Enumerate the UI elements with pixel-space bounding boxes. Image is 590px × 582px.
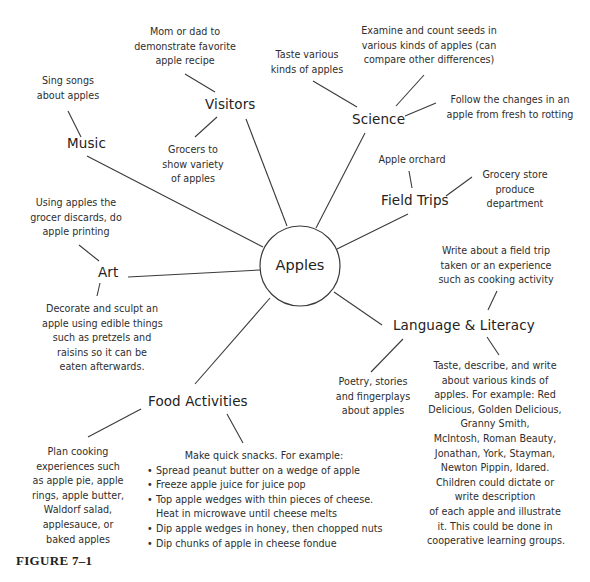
- note-line: Grocery store: [472, 168, 558, 183]
- note-line: such as cooking activity: [437, 273, 555, 288]
- note-line: and fingerplays: [330, 390, 416, 405]
- note-line: Examine and count seeds in: [358, 24, 500, 39]
- note-line: Mom or dad to: [127, 25, 243, 40]
- connector-language-poetry: [371, 339, 403, 372]
- category-language-literacy: Language & Literacy: [393, 317, 535, 333]
- snack-item: Spread peanut butter on a wedge of apple: [147, 464, 381, 479]
- connector-center-language: [334, 292, 382, 325]
- snacks-list: Spread peanut butter on a wedge of apple…: [147, 464, 381, 552]
- note-visitors-parent-recipe: Mom or dad to demonstrate favorite apple…: [127, 25, 243, 69]
- note-line: Apple orchard: [374, 153, 450, 168]
- note-line: experiences such: [32, 460, 124, 475]
- note-line: rings, apple butter,: [32, 489, 124, 504]
- connector-art-printing: [79, 245, 99, 261]
- snack-item-line: Heat in microwave until cheese melts: [156, 507, 381, 522]
- note-line: Granny Smith,: [427, 417, 563, 432]
- note-line: compare other differences): [358, 53, 500, 68]
- note-line: Follow the changes in an: [435, 93, 585, 108]
- snack-item-line: Top apple wedges with thin pieces of che…: [156, 493, 381, 508]
- category-music: Music: [67, 135, 106, 151]
- center-topic: Apples: [260, 257, 340, 273]
- note-line: show variety: [155, 158, 231, 173]
- note-line: baked apples: [32, 533, 124, 548]
- note-line: Grocers to: [155, 143, 231, 158]
- note-language-poetry: Poetry, stories and fingerplays about ap…: [330, 375, 416, 419]
- note-line: write description: [427, 490, 563, 505]
- note-line: Decorate and sculpt an: [42, 302, 162, 317]
- note-line: Sing songs: [32, 74, 104, 89]
- note-line: Children could dictate or: [427, 476, 563, 491]
- note-line: kinds of apples: [266, 63, 348, 78]
- note-line: it. This could be done in: [427, 520, 563, 535]
- note-line: department: [472, 197, 558, 212]
- note-line: Taste, describe, and write: [427, 359, 563, 374]
- connector-visitors-grocers: [195, 117, 217, 137]
- note-line: eaten afterwards.: [42, 360, 162, 375]
- note-line: grocer discards, do: [24, 211, 128, 226]
- category-visitors: Visitors: [205, 96, 255, 112]
- note-food-plan-cooking: Plan cooking experiences such as apple p…: [32, 445, 124, 547]
- note-line: such as pretzels and: [42, 331, 162, 346]
- note-line: various kinds of apples (can: [358, 39, 500, 54]
- note-line: Write about a field trip: [437, 244, 555, 259]
- connector-center-visitors: [246, 119, 287, 226]
- note-science-rotting: Follow the changes in an apple from fres…: [435, 93, 585, 122]
- note-line: cooperative learning groups.: [427, 534, 563, 549]
- connector-music-songs: [68, 111, 81, 137]
- connector-science-taste: [313, 81, 357, 107]
- figure-caption: FIGURE 7–1: [16, 553, 92, 569]
- note-line: apple printing: [24, 225, 128, 240]
- connector-center-art: [128, 270, 260, 277]
- note-line: applesauce, or: [32, 518, 124, 533]
- note-line: Plan cooking: [32, 445, 124, 460]
- connector-food-snacks: [227, 414, 243, 443]
- connector-language-write: [488, 291, 497, 310]
- category-food-activities: Food Activities: [148, 393, 248, 409]
- category-field-trips: Field Trips: [381, 192, 449, 208]
- connector-center-science: [316, 133, 365, 228]
- note-line: taken or an experience: [437, 259, 555, 274]
- connector-art-decorate: [97, 283, 100, 296]
- note-line: Waldorf salad,: [32, 503, 124, 518]
- note-line: McIntosh, Roman Beauty,: [427, 432, 563, 447]
- connector-language-taste: [487, 337, 499, 355]
- note-field-orchard: Apple orchard: [374, 153, 450, 168]
- note-field-grocery: Grocery store produce department: [472, 168, 558, 212]
- note-line: about apples: [330, 404, 416, 419]
- note-line: produce: [472, 183, 558, 198]
- category-science: Science: [352, 111, 405, 127]
- snack-item: Freeze apple juice for juice pop: [147, 478, 381, 493]
- note-language-taste-describe: Taste, describe, and write about various…: [427, 359, 563, 549]
- note-line: Taste various: [266, 48, 348, 63]
- connector-food-plan: [88, 409, 141, 437]
- note-line: Newton Pippin, Idared.: [427, 461, 563, 476]
- note-line: of each apple and illustrate: [427, 505, 563, 520]
- note-line: Using apples the: [24, 196, 128, 211]
- note-language-write-field-trip: Write about a field trip taken or an exp…: [437, 244, 555, 288]
- connector-science-seeds: [396, 75, 424, 106]
- note-art-printing: Using apples the grocer discards, do app…: [24, 196, 128, 240]
- note-line: Delicious, Golden Delicious,: [427, 403, 563, 418]
- connector-center-field-trips: [337, 214, 408, 249]
- note-line: raisins so it can be: [42, 346, 162, 361]
- snack-item: Dip apple wedges in honey, then chopped …: [147, 522, 381, 537]
- note-line: Jonathan, York, Stayman,: [427, 447, 563, 462]
- snack-item: Dip chunks of apple in cheese fondue: [147, 537, 381, 552]
- note-line: Poetry, stories: [330, 375, 416, 390]
- note-music-songs: Sing songs about apples: [32, 74, 104, 103]
- connector-science-rotting: [405, 103, 436, 116]
- connector-field-grocery: [446, 177, 472, 196]
- note-science-taste: Taste various kinds of apples: [266, 48, 348, 77]
- connector-field-orchard: [409, 171, 412, 188]
- note-line: apples. For example: Red: [427, 388, 563, 403]
- note-line: apple from fresh to rotting: [435, 108, 585, 123]
- note-food-snacks: Make quick snacks. For example: Spread p…: [147, 449, 381, 551]
- note-line: about various kinds of: [427, 374, 563, 389]
- note-line: about apples: [32, 89, 104, 104]
- connector-visitors-parent: [185, 74, 215, 92]
- note-line: as apple pie, apple: [32, 474, 124, 489]
- note-line: apple recipe: [127, 54, 243, 69]
- category-art: Art: [98, 264, 118, 280]
- note-line: of apples: [155, 172, 231, 187]
- note-visitors-grocers: Grocers to show variety of apples: [155, 143, 231, 187]
